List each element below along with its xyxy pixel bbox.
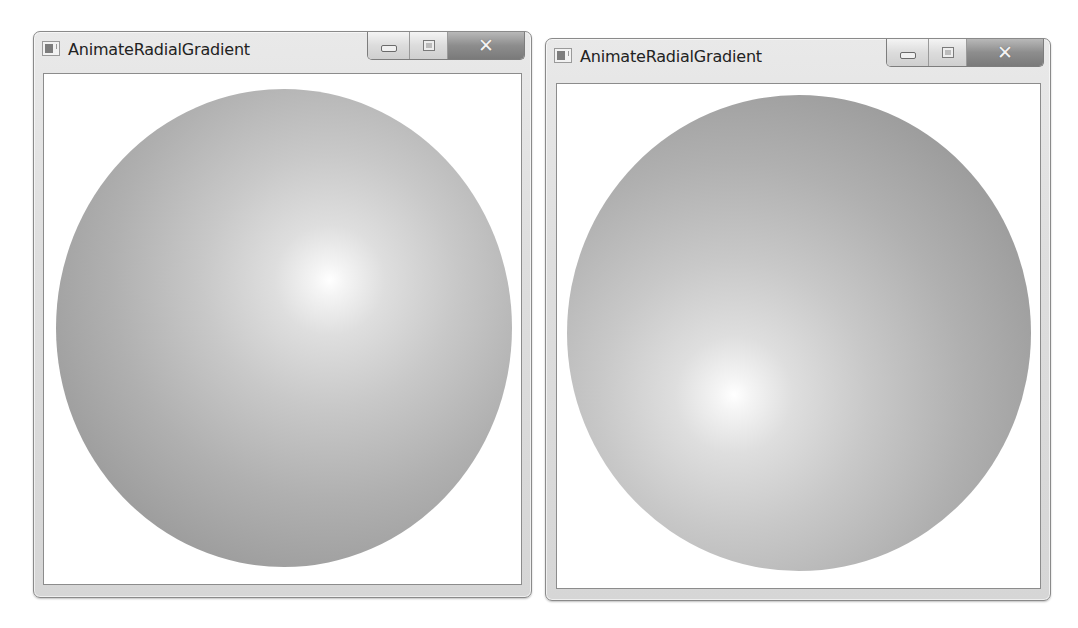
- close-button[interactable]: ✕: [967, 39, 1043, 66]
- window-title: AnimateRadialGradient: [580, 47, 762, 66]
- close-button[interactable]: ✕: [448, 32, 524, 59]
- window-title: AnimateRadialGradient: [68, 40, 250, 59]
- minimize-button[interactable]: [887, 39, 929, 66]
- minimize-button[interactable]: [368, 32, 410, 59]
- minimize-icon: [381, 45, 397, 52]
- maximize-button[interactable]: [410, 32, 448, 59]
- minimize-icon: [900, 52, 916, 59]
- close-icon: ✕: [997, 43, 1013, 62]
- maximize-button[interactable]: [929, 39, 967, 66]
- title-bar[interactable]: AnimateRadialGradient ✕: [546, 39, 1050, 79]
- title-bar[interactable]: AnimateRadialGradient ✕: [34, 32, 531, 72]
- window-left: AnimateRadialGradient ✕: [33, 31, 532, 598]
- app-window-icon[interactable]: [42, 41, 60, 56]
- radial-gradient-ellipse: [56, 89, 512, 567]
- radial-gradient-ellipse: [567, 95, 1031, 571]
- client-area: [556, 83, 1041, 589]
- app-window-icon[interactable]: [554, 48, 572, 63]
- maximize-icon: [943, 48, 953, 57]
- maximize-icon: [424, 41, 434, 50]
- caption-buttons: ✕: [886, 39, 1044, 67]
- caption-buttons: ✕: [367, 32, 525, 60]
- window-right: AnimateRadialGradient ✕: [545, 38, 1051, 601]
- client-area: [43, 73, 522, 585]
- close-icon: ✕: [478, 36, 494, 55]
